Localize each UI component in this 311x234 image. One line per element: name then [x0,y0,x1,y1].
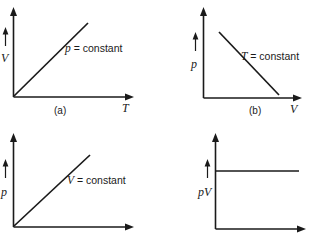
panel-a-data-line [14,23,88,96]
panel-c-y-axis-arrowhead [10,133,17,142]
panel-d-y-direction-arrow [205,159,211,178]
panel-b-y-direction-arrow [193,32,199,51]
panel-b-y-axis-label: p [190,57,197,71]
panel-a: V T p = constant (a) [1,7,134,116]
panel-d: pV [197,133,306,233]
panel-a-y-axis-arrowhead [10,7,17,16]
panel-d-y-axis-arrowhead [212,133,219,142]
panel-a-annotation: p = constant [64,42,122,55]
panel-b-x-axis-arrowhead [293,95,302,102]
panel-c: p V = constant [0,133,134,231]
panel-c-y-direction-arrow [3,159,9,178]
panel-d-y-axis-label: pV [197,185,213,199]
panel-b-data-line [219,32,279,95]
panel-c-x-axis-arrowhead [125,224,134,231]
gas-law-figure: V T p = constant (a) p V T = constant (b… [0,0,311,234]
panel-a-annotation-text: = constant [71,42,123,54]
panel-d-x-axis-arrowhead [297,226,306,233]
panel-b-x-axis-label: V [290,102,299,116]
panel-a-x-axis-arrowhead [125,94,134,101]
panel-a-y-direction-arrow [3,27,9,46]
panel-c-annotation: V = constant [67,174,126,186]
panel-b: p V T = constant (b) [190,7,302,116]
panel-c-y-axis-label: p [0,185,7,199]
panel-a-y-axis-label: V [1,51,10,65]
panel-b-y-axis-arrowhead [200,7,207,16]
panel-c-data-line [14,155,90,226]
panel-a-x-axis-label: T [122,101,130,115]
panel-b-annotation-text: = constant [247,50,299,62]
panel-b-annotation: T = constant [241,50,299,62]
panel-a-letter: (a) [54,105,66,116]
panel-b-letter: (b) [249,105,261,116]
panel-c-annotation-text: = constant [74,174,126,186]
